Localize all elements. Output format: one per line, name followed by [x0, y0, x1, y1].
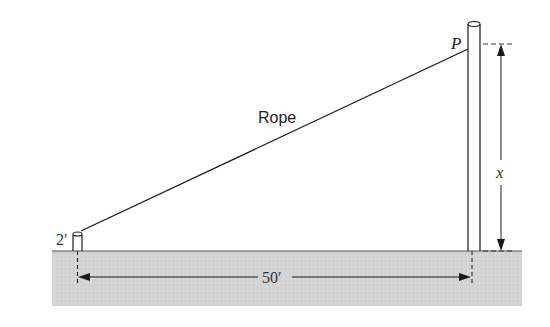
rope-diagram: Rope P 2′ 50′ x [0, 0, 550, 327]
ground [52, 251, 522, 306]
height-dimension [483, 44, 514, 251]
short-post-height-label: 2′ [56, 231, 68, 248]
height-x-label: x [495, 163, 504, 182]
distance-label: 50′ [262, 269, 282, 286]
point-p-label: P [450, 34, 461, 53]
tall-post [468, 22, 480, 284]
rope-label: Rope [258, 109, 296, 126]
rope-line [81, 49, 468, 231]
